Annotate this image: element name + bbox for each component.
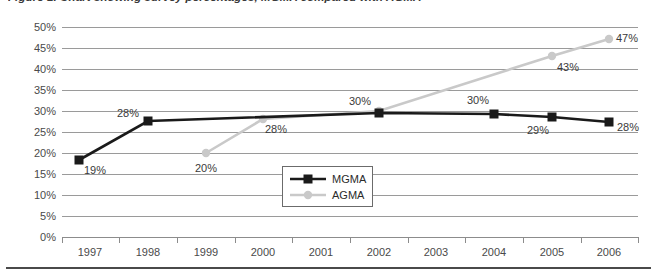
ytick-label-30: 30%: [34, 105, 56, 117]
xtick-label-2002: 2002: [367, 246, 391, 258]
label-agma-2005: 43%: [557, 61, 579, 73]
mgma-point-2004: [490, 110, 499, 119]
mgma-point-2002: [375, 109, 384, 118]
xtick-label-2006: 2006: [597, 246, 621, 258]
legend-swatch-agma-marker: [304, 191, 312, 199]
agma-point-1999: [202, 149, 210, 157]
xtick-label-1999: 1999: [194, 246, 218, 258]
ytick-label-40: 40%: [34, 63, 56, 75]
line-chart-svg: 50% 45% 40% 35% 30% 25% 20% 15% 10% 5% 0…: [0, 0, 657, 280]
label-mgma-1997: 19%: [84, 164, 106, 176]
xtick-label-2000: 2000: [251, 246, 275, 258]
ytick-label-50: 50%: [34, 21, 56, 33]
xtick-label-2005: 2005: [540, 246, 564, 258]
ytick-label-5: 5%: [40, 210, 56, 222]
ytick-label-25: 25%: [34, 126, 56, 138]
legend-swatch-mgma-marker: [304, 175, 313, 184]
y-axis-labels: 50% 45% 40% 35% 30% 25% 20% 15% 10% 5% 0…: [34, 21, 56, 243]
ytick-label-35: 35%: [34, 84, 56, 96]
legend-label-agma[interactable]: AGMA: [332, 189, 365, 201]
label-mgma-2002: 30%: [349, 95, 371, 107]
ytick-label-0: 0%: [40, 231, 56, 243]
x-axis-ticks: [62, 237, 638, 243]
ytick-label-15: 15%: [34, 168, 56, 180]
label-agma-2006: 47%: [616, 32, 638, 44]
chart-legend[interactable]: MGMA AGMA: [282, 166, 372, 206]
label-mgma-2005: 29%: [527, 124, 549, 136]
xtick-label-2001: 2001: [309, 246, 333, 258]
xtick-label-1997: 1997: [78, 246, 102, 258]
series-agma: [202, 35, 613, 157]
label-agma-1999: 20%: [195, 162, 217, 174]
ytick-label-10: 10%: [34, 189, 56, 201]
mgma-point-2006: [605, 118, 614, 127]
label-mgma-2006: 28%: [617, 121, 639, 133]
label-agma-2000: 28%: [265, 123, 287, 135]
agma-point-2006: [605, 35, 613, 43]
agma-point-2005: [548, 52, 556, 60]
x-axis-labels: 1997 1998 1999 2000 2001 2002 2003 2004 …: [78, 246, 621, 258]
xtick-label-2004: 2004: [482, 246, 506, 258]
series-mgma: [75, 109, 614, 165]
ytick-label-45: 45%: [34, 42, 56, 54]
legend-label-mgma[interactable]: MGMA: [332, 173, 367, 185]
mgma-point-1998: [144, 117, 153, 126]
label-mgma-2004: 30%: [467, 94, 489, 106]
plot-area: 50% 45% 40% 35% 30% 25% 20% 15% 10% 5% 0…: [0, 0, 657, 280]
mgma-point-2005: [548, 113, 557, 122]
mgma-point-1997: [75, 156, 84, 165]
xtick-label-1998: 1998: [136, 246, 160, 258]
xtick-label-2003: 2003: [424, 246, 448, 258]
ytick-label-20: 20%: [34, 147, 56, 159]
label-mgma-1998: 28%: [117, 107, 139, 119]
figure-container: Figure 1. Chart showing survey percentag…: [0, 0, 657, 280]
